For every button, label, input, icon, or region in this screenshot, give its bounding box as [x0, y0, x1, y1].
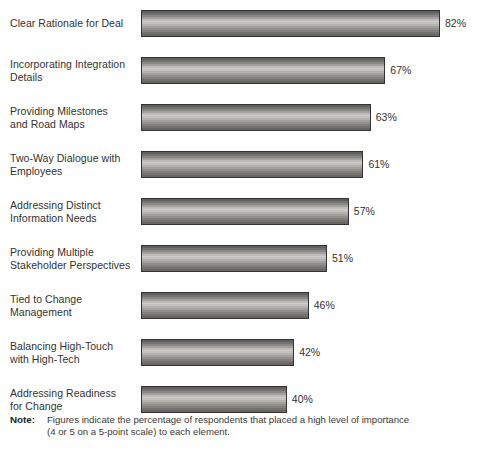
bar-track: 67%: [141, 57, 485, 84]
bar-row: Addressing Distinct Information Needs 57…: [0, 188, 485, 235]
category-label: Incorporating Integration Details: [10, 58, 135, 83]
category-label: Providing Multiple Stakeholder Perspecti…: [10, 246, 135, 271]
bar-value-label: 51%: [332, 253, 353, 264]
category-label: Addressing Distinct Information Needs: [10, 199, 135, 224]
bar-row: Incorporating Integration Details 67%: [0, 47, 485, 94]
category-label: Clear Rationale for Deal: [10, 17, 135, 30]
category-label: Addressing Readiness for Change: [10, 387, 135, 412]
bar-fill: [141, 292, 309, 319]
bar-row: Clear Rationale for Deal 82%: [0, 0, 485, 47]
category-label: Tied to Change Management: [10, 293, 135, 318]
category-label: Balancing High-Touch with High-Tech: [10, 340, 135, 365]
bar-fill: [141, 386, 287, 413]
bar-fill: [141, 57, 385, 84]
bar-track: 42%: [141, 339, 485, 366]
bar-value-label: 82%: [445, 18, 466, 29]
footnote-text: Figures indicate the percentage of respo…: [47, 414, 478, 439]
bar-value-label: 67%: [390, 65, 411, 76]
bar-row: Providing Multiple Stakeholder Perspecti…: [0, 235, 485, 282]
bar-track: 57%: [141, 198, 485, 225]
category-label: Two-Way Dialogue with Employees: [10, 152, 135, 177]
bar-fill: [141, 10, 440, 37]
bar-track: 61%: [141, 151, 485, 178]
chart-footnote: Note: Figures indicate the percentage of…: [10, 414, 478, 439]
bar-fill: [141, 151, 363, 178]
bar-track: 51%: [141, 245, 485, 272]
bar-track: 63%: [141, 104, 485, 131]
bar-row: Tied to Change Management 46%: [0, 282, 485, 329]
bar-value-label: 40%: [292, 394, 313, 405]
bar-track: 82%: [141, 10, 485, 37]
bar-row: Providing Milestones and Road Maps 63%: [0, 94, 485, 141]
bar-fill: [141, 245, 327, 272]
bar-value-label: 61%: [368, 159, 389, 170]
bar-value-label: 42%: [299, 347, 320, 358]
bar-track: 40%: [141, 386, 485, 413]
footnote-label: Note:: [10, 414, 47, 426]
bar-rows-container: Clear Rationale for Deal 82% Incorporati…: [0, 0, 485, 423]
bar-value-label: 46%: [314, 300, 335, 311]
bar-track: 46%: [141, 292, 485, 319]
bar-fill: [141, 104, 371, 131]
bar-value-label: 63%: [376, 112, 397, 123]
bar-row: Two-Way Dialogue with Employees 61%: [0, 141, 485, 188]
bar-row: Balancing High-Touch with High-Tech 42%: [0, 329, 485, 376]
bar-value-label: 57%: [354, 206, 375, 217]
category-label: Providing Milestones and Road Maps: [10, 105, 135, 130]
bar-fill: [141, 339, 294, 366]
bar-fill: [141, 198, 349, 225]
horizontal-bar-chart: Clear Rationale for Deal 82% Incorporati…: [0, 0, 485, 449]
